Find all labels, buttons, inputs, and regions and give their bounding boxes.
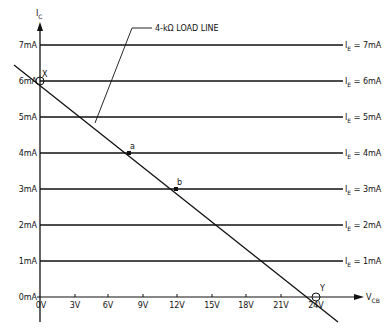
- y-axis: IC 0mA 1mA 2mA 3mA 4mA 5mA 6mA 7mA: [19, 9, 43, 322]
- y-tick-5: 5mA: [19, 113, 38, 122]
- x-tick-4: 12V: [169, 301, 185, 310]
- point-y-label: Y: [319, 284, 325, 293]
- load-line-leader: [95, 28, 152, 123]
- ie-2ma-label: IE = 2mA: [345, 221, 382, 232]
- ie-6ma-label: IE = 6mA: [345, 77, 382, 88]
- y-axis-arrow-icon: [37, 22, 43, 31]
- ie-4ma-label: IE = 4mA: [345, 149, 382, 160]
- load-line-title: 4-kΩ LOAD LINE: [155, 24, 219, 33]
- y-tick-1: 1mA: [19, 257, 38, 266]
- point-b-label: b: [177, 178, 182, 187]
- y-tick-3: 3mA: [19, 185, 38, 194]
- x-tick-1: 3V: [70, 301, 81, 310]
- ie-5ma-label: IE = 5mA: [345, 113, 382, 124]
- x-tick-0: 0V: [36, 301, 47, 310]
- x-tick-3: 9V: [138, 301, 149, 310]
- x-tick-5: 15V: [204, 301, 220, 310]
- x-tick-6: 18V: [238, 301, 254, 310]
- x-tick-7: 21V: [273, 301, 289, 310]
- point-a-label: a: [130, 142, 135, 151]
- x-tick-2: 6V: [103, 301, 114, 310]
- point-b-marker: [174, 187, 178, 191]
- ie-3ma-label: IE = 3mA: [345, 185, 382, 196]
- ie-labels: IE = 1mA IE = 2mA IE = 3mA IE = 4mA IE =…: [345, 41, 382, 268]
- ie-curves: [40, 45, 343, 261]
- y-tick-0: 0mA: [19, 293, 38, 302]
- ie-7ma-label: IE = 7mA: [345, 41, 382, 52]
- x-axis-arrow-icon: [354, 294, 364, 300]
- y-tick-4: 4mA: [19, 149, 38, 158]
- x-axis-label: VCB: [366, 293, 380, 304]
- load-line-diagram: IC 0mA 1mA 2mA 3mA 4mA 5mA 6mA 7mA VCB 0…: [0, 0, 388, 331]
- y-tick-2: 2mA: [19, 221, 38, 230]
- load-line: [14, 65, 338, 322]
- ie-1ma-label: IE = 1mA: [345, 257, 382, 268]
- y-axis-label: IC: [36, 9, 43, 20]
- x-axis: VCB 0V 3V 6V 9V 12V 15V 18V 21V 24V: [36, 293, 380, 310]
- point-x-label: X: [42, 70, 48, 79]
- y-tick-7: 7mA: [19, 41, 38, 50]
- point-a-marker: [127, 151, 131, 155]
